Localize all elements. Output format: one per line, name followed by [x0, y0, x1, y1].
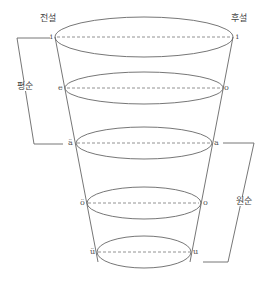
level-1-back: i [236, 33, 239, 41]
level-4-back: o [203, 199, 208, 207]
level-1-front: i [50, 33, 53, 41]
funnel-svg [0, 0, 272, 296]
level-5-front: ü [90, 248, 95, 256]
front-header: 전설 [40, 14, 56, 23]
level-2-back: o [224, 84, 229, 92]
funnel-right-side [190, 37, 233, 262]
rounded-label: 원순 [236, 197, 252, 206]
unrounded-label: 평순 [17, 82, 33, 91]
level-3-front: ä [68, 139, 73, 147]
level-5-back: u [193, 248, 198, 256]
unrounded-bracket [17, 38, 63, 144]
back-header: 후설 [231, 14, 247, 23]
level-3-back: a [214, 139, 219, 147]
level-4-front: ö [80, 199, 85, 207]
level-2-front: e [58, 84, 63, 92]
funnel-left-side [55, 37, 98, 262]
